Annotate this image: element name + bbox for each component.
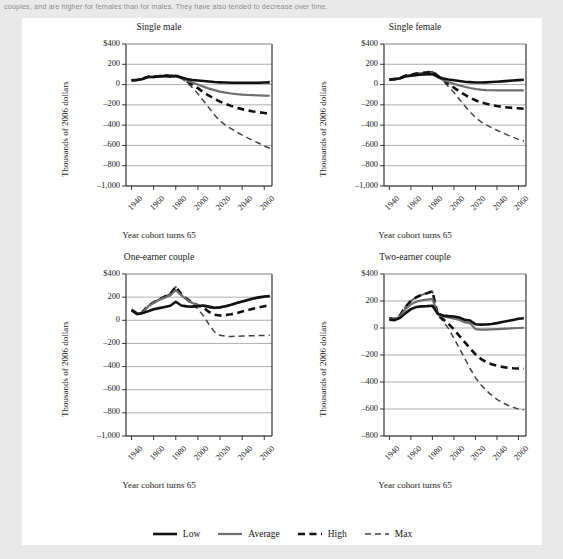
legend-label: High <box>328 529 347 539</box>
x-axis-label: Year cohort turns 65 <box>288 230 542 240</box>
legend-item-average: Average <box>217 529 279 539</box>
plot-area <box>30 22 288 254</box>
series-low <box>389 306 523 325</box>
legend-item-max: Max <box>364 529 412 539</box>
legend-label: Average <box>248 529 279 539</box>
legend-label: Low <box>183 529 200 539</box>
series-high <box>389 291 523 368</box>
x-axis-label: Year cohort turns 65 <box>30 480 288 490</box>
legend-item-low: Low <box>152 529 200 539</box>
legend-swatch-average-icon <box>217 529 243 539</box>
chart-legend: LowAverageHighMax <box>22 529 542 539</box>
legend-label: Max <box>395 529 412 539</box>
series-max <box>132 287 270 337</box>
page-caption: couples, and are higher for females than… <box>0 0 563 18</box>
series-low <box>389 74 523 83</box>
series-average <box>132 76 270 96</box>
chart-two-earner-couple: Two-earner coupleThousands of 2006 dolla… <box>288 252 542 504</box>
four-chart-figure: Single maleThousands of 2006 dollars$400… <box>22 18 542 545</box>
legend-swatch-max-icon <box>364 529 390 539</box>
figure-panel: Single maleThousands of 2006 dollars$400… <box>22 18 542 545</box>
series-low <box>132 76 270 83</box>
plot-area <box>30 252 288 504</box>
legend-swatch-low-icon <box>152 529 178 539</box>
chart-one-earner-couple: One-earner coupleThousands of 2006 dolla… <box>30 252 288 504</box>
x-axis-label: Year cohort turns 65 <box>288 480 542 490</box>
plot-area <box>288 22 542 254</box>
x-axis-label: Year cohort turns 65 <box>30 230 288 240</box>
legend-swatch-high-icon <box>297 529 323 539</box>
legend-item-high: High <box>297 529 347 539</box>
chart-single-male: Single maleThousands of 2006 dollars$400… <box>30 22 288 254</box>
chart-single-female: Single femaleThousands of 2006 dollars$4… <box>288 22 542 254</box>
plot-area <box>288 252 542 504</box>
